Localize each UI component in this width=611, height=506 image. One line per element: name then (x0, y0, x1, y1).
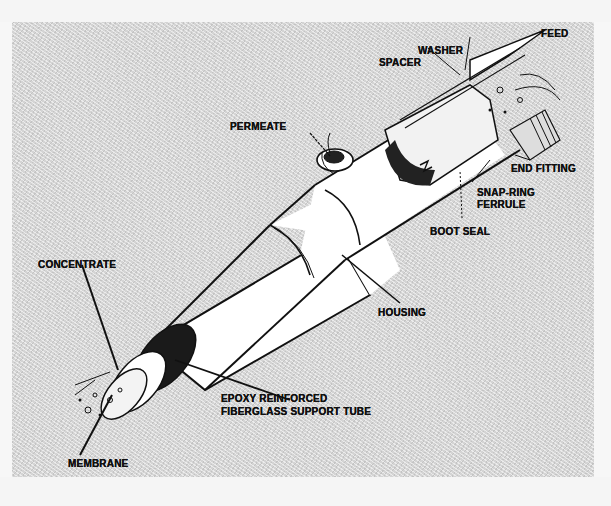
label-housing: HOUSING (378, 307, 426, 318)
module-drawing (0, 0, 611, 506)
label-washer: WASHER (418, 45, 463, 56)
label-boot-seal: BOOT SEAL (430, 226, 490, 237)
label-snap-ring: SNAP-RING (477, 187, 535, 198)
label-end-fitting: END FITTING (511, 163, 576, 174)
label-support-tube-line2: FIBERGLASS SUPPORT TUBE (221, 406, 371, 417)
label-concentrate: CONCENTRATE (38, 259, 116, 270)
label-feed: FEED (541, 28, 568, 39)
label-ferrule: FERRULE (477, 199, 526, 210)
label-permeate: PERMEATE (230, 121, 286, 132)
label-spacer: SPACER (379, 57, 421, 68)
label-membrane: MEMBRANE (68, 458, 129, 469)
label-support-tube-line1: EPOXY REINFORCED (221, 393, 327, 404)
permeate-port (317, 133, 353, 174)
